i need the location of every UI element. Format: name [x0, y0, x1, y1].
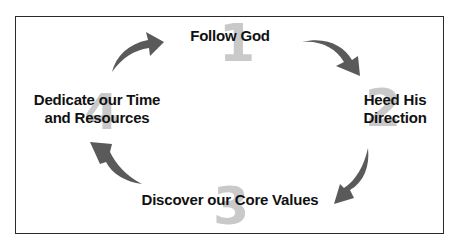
step-4-label: Dedicate our Time and Resources [22, 91, 172, 127]
step-4-label-line2: and Resources [22, 109, 172, 127]
curved-arrow-down-left-icon [330, 146, 372, 210]
step-1-label: Follow God [180, 27, 280, 45]
step-2-label: Heed His Direction [345, 91, 445, 127]
curved-arrow-down-right-icon [300, 38, 364, 80]
step-3-label: Discover our Core Values [135, 191, 325, 209]
curved-arrow-up-left-icon [86, 140, 146, 188]
curved-arrow-up-right-icon [108, 26, 166, 74]
step-2-label-line2: Direction [345, 109, 445, 127]
step-2-label-line1: Heed His [345, 91, 445, 109]
step-4-label-line1: Dedicate our Time [22, 91, 172, 109]
